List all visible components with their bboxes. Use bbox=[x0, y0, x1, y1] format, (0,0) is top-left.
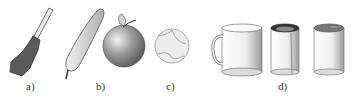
closed-cylinder-icon bbox=[314, 24, 344, 75]
label-b: b) bbox=[96, 80, 105, 92]
figure-canvas bbox=[0, 0, 354, 100]
cut-cylinder-icon bbox=[271, 24, 299, 75]
screwdriver-icon bbox=[10, 8, 53, 76]
apple-icon bbox=[103, 14, 145, 67]
mug-icon bbox=[213, 24, 262, 76]
tennis-ball-icon bbox=[155, 29, 189, 63]
sausage-icon bbox=[66, 9, 104, 79]
label-c: c) bbox=[166, 80, 175, 92]
label-d: d) bbox=[278, 80, 287, 92]
label-a: a) bbox=[26, 80, 35, 92]
